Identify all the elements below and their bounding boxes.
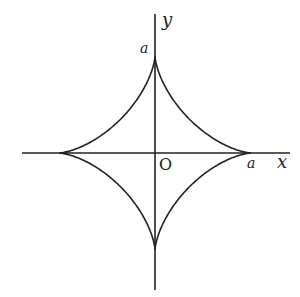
x-intercept-label: a [247, 155, 255, 171]
x-axis-label: x [277, 151, 287, 172]
origin-label: O [159, 155, 172, 174]
astroid-diagram: y a O a x [0, 0, 300, 297]
y-axis-label: y [161, 9, 173, 30]
y-intercept-label: a [140, 40, 148, 56]
